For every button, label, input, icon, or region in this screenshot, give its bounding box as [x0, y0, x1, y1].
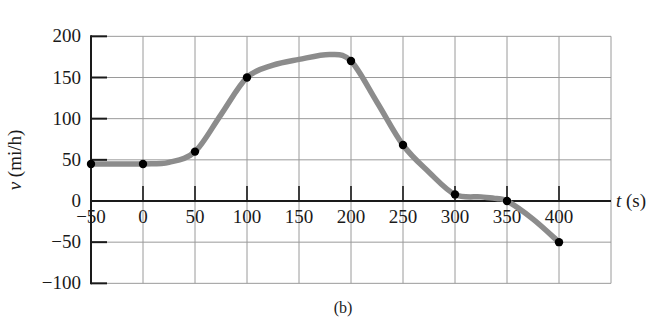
y-tick-label: 100 — [53, 108, 82, 129]
x-tick-label: 0 — [138, 206, 148, 227]
velocity-curve — [91, 54, 559, 242]
x-tick-label: 100 — [233, 206, 262, 227]
x-tick-label: 250 — [389, 206, 418, 227]
data-points — [87, 57, 563, 247]
y-tick-label: −50 — [51, 231, 81, 252]
data-point — [503, 197, 511, 205]
y-tick-label: 0 — [72, 190, 82, 211]
y-tick-label: −100 — [42, 272, 81, 293]
x-axis-label: t (s) — [616, 190, 646, 212]
data-point — [451, 190, 459, 198]
x-tick-label: 300 — [441, 206, 470, 227]
x-tick-label: 400 — [545, 206, 574, 227]
figure-caption: (b) — [334, 299, 353, 317]
data-point — [87, 160, 95, 168]
data-point — [191, 147, 199, 155]
data-point — [555, 238, 563, 246]
x-tick-label: 200 — [337, 206, 366, 227]
y-tick-label: 50 — [62, 149, 81, 170]
data-point — [243, 73, 251, 81]
velocity-time-chart: −50050100150200250300350400200150100500−… — [0, 0, 662, 336]
data-point — [139, 160, 147, 168]
x-tick-label: 50 — [186, 206, 205, 227]
y-tick-label: 200 — [53, 25, 82, 46]
data-point — [399, 141, 407, 149]
y-axis-label: v (mi/h) — [4, 130, 26, 191]
x-tick-label: 150 — [285, 206, 314, 227]
y-tick-label: 150 — [53, 67, 82, 88]
data-point — [347, 57, 355, 65]
